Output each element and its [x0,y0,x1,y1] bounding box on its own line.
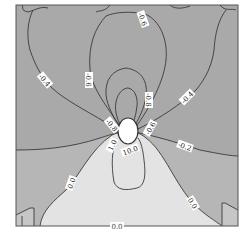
contour-label: -0.8 [144,93,152,107]
contour-label: -0.6 [84,73,92,87]
plot-area [16,5,238,226]
central-body [118,118,138,144]
contour-plot: -0.4 -0.6 -0.6 -0.8 -0.4 -0.8 -0.6 1.0 [0,0,250,239]
contour-label-bottom: 0.0 [111,223,122,231]
